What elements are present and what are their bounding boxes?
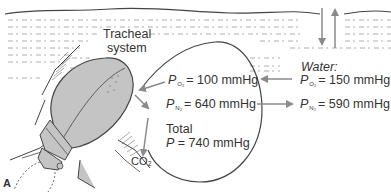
bubble-total-line1: Total — [166, 123, 192, 136]
bubble-po2-value: = 100 mmHg — [186, 73, 258, 87]
bubble-total-value: = 740 mmHg — [178, 136, 250, 150]
tracheal-label-line2: system — [107, 42, 147, 55]
bubble-pn2-sub: N₂ — [175, 105, 182, 111]
water-title: Water: — [301, 61, 338, 74]
bubble-pn2-label: PN₂= 640 mmHg — [166, 98, 256, 111]
water-surface — [5, 8, 391, 14]
water-pn2-value: = 590 mmHg — [318, 97, 390, 111]
air-bubble — [140, 42, 262, 182]
water-po2-symbol: P — [300, 73, 308, 87]
diagram-artwork — [0, 0, 391, 192]
water-pn2-label: PN₂= 590 mmHg — [300, 98, 390, 111]
tracheal-label-line1: Tracheal — [103, 28, 151, 41]
bubble-po2-sub: O₂ — [177, 81, 184, 87]
co2-label: CO₂ — [131, 156, 152, 167]
diagram-canvas: Tracheal system PO₂= 100 mmHg PN₂= 640 m… — [0, 0, 391, 192]
water-pn2-symbol: P — [300, 97, 308, 111]
water-po2-sub: O₂ — [309, 81, 316, 87]
water-pn2-sub: N₂ — [309, 105, 316, 111]
bubble-po2-symbol: P — [168, 73, 176, 87]
bubble-to-beetle-flow-arrow — [135, 95, 148, 108]
co2-out-arrow — [143, 118, 148, 155]
bubble-total-symbol: P — [166, 136, 174, 150]
bubble-po2-label: PO₂= 100 mmHg — [168, 74, 258, 87]
bubble-pn2-symbol: P — [166, 97, 174, 111]
beetle-illustration — [10, 45, 150, 192]
bubble-pn2-value: = 640 mmHg — [184, 97, 256, 111]
panel-label: A — [3, 178, 11, 189]
water-po2-value: = 150 mmHg — [318, 73, 390, 87]
bubble-total-label: P = 740 mmHg — [166, 137, 250, 150]
water-po2-label: PO₂= 150 mmHg — [300, 74, 390, 87]
